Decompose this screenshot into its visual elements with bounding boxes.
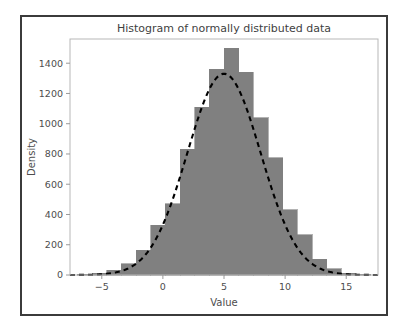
histogram-bar xyxy=(151,225,166,275)
x-tick-label: 15 xyxy=(340,281,352,292)
histogram-bar xyxy=(297,235,312,275)
y-tick-label: 1200 xyxy=(39,88,63,99)
x-tick-label: 10 xyxy=(279,281,291,292)
y-tick-label: 1000 xyxy=(39,118,63,129)
matplotlib-figure: −5051015Value0200400600800100012001400De… xyxy=(22,17,386,314)
histogram-bar xyxy=(195,107,210,275)
histogram-bar xyxy=(136,250,151,275)
y-axis-title: Density xyxy=(26,138,37,176)
y-tick-label: 0 xyxy=(57,269,63,280)
histogram-bar xyxy=(268,158,283,275)
y-tick-label: 600 xyxy=(45,179,63,190)
histogram-chart: −5051015Value0200400600800100012001400De… xyxy=(22,17,386,314)
chart-title: Histogram of normally distributed data xyxy=(117,22,331,35)
x-tick-label: 5 xyxy=(221,281,227,292)
y-tick-label: 200 xyxy=(45,239,63,250)
x-tick-label: −5 xyxy=(95,281,109,292)
histogram-bar xyxy=(209,69,224,275)
figure-frame: −5051015Value0200400600800100012001400De… xyxy=(20,15,388,316)
x-axis-title: Value xyxy=(210,297,237,308)
y-tick-label: 800 xyxy=(45,148,63,159)
y-tick-label: 1400 xyxy=(39,58,63,69)
histogram-bar xyxy=(239,72,254,275)
y-tick-label: 400 xyxy=(45,209,63,220)
histogram-bar xyxy=(253,118,268,275)
histogram-bar xyxy=(283,210,298,275)
histogram-bar xyxy=(224,48,239,275)
histogram-bar xyxy=(312,259,327,275)
x-tick-label: 0 xyxy=(160,281,166,292)
